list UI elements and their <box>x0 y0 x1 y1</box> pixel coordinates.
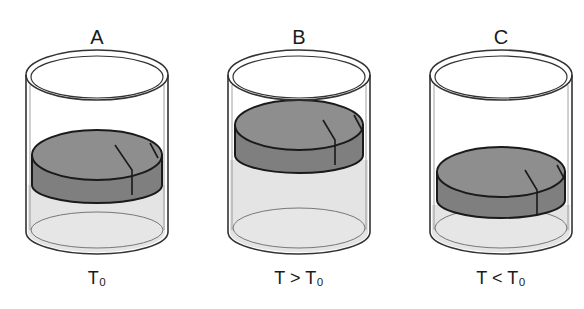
beaker-label-c: C <box>471 26 531 49</box>
beaker-a <box>26 50 168 254</box>
condition-label-a: T₀ <box>37 268 157 289</box>
beaker-c <box>430 50 572 254</box>
beaker-label-b: B <box>269 26 329 49</box>
condition-label-b: T > T₀ <box>239 268 359 289</box>
beaker-label-a: A <box>67 26 127 49</box>
beaker-b <box>228 50 370 254</box>
condition-label-c: T < T₀ <box>441 268 561 289</box>
